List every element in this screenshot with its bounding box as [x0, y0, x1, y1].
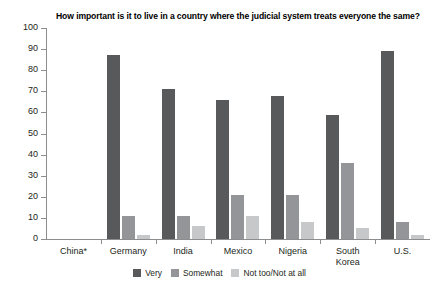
- x-axis-label: U.S.: [375, 246, 430, 257]
- legend-item[interactable]: Very: [133, 268, 162, 278]
- bar: [411, 235, 424, 239]
- x-axis-label-line: China*: [46, 246, 101, 257]
- bar-group-bars: [265, 28, 320, 239]
- bar: [122, 216, 135, 239]
- bar-group: [101, 28, 156, 239]
- bar: [356, 228, 369, 239]
- chart-legend: VerySomewhatNot too/Not at all: [0, 268, 439, 278]
- x-axis-separator: [101, 239, 102, 244]
- bar: [192, 226, 205, 239]
- bar: [231, 195, 244, 239]
- legend-item[interactable]: Somewhat: [171, 268, 223, 278]
- bar-group-bars: [211, 28, 266, 239]
- y-tick-label: 0: [33, 233, 38, 243]
- legend-swatch-icon: [231, 269, 239, 277]
- x-axis-line: [46, 239, 430, 240]
- legend-item[interactable]: Not too/Not at all: [231, 268, 305, 278]
- bar: [246, 216, 259, 239]
- x-axis-separator: [265, 239, 266, 244]
- bar: [326, 115, 339, 239]
- x-axis-separator: [211, 239, 212, 244]
- bar: [216, 100, 229, 239]
- chart-title: How important is it to live in a country…: [56, 11, 432, 21]
- bar: [286, 195, 299, 239]
- plot-area: 1009080706050403020100: [46, 28, 430, 240]
- x-axis-label-line: Mexico: [211, 246, 266, 257]
- bar-group-bars: [320, 28, 375, 239]
- y-tick-label: 20: [28, 191, 38, 201]
- bar-group-bars: [101, 28, 156, 239]
- x-axis-label-line: South: [320, 246, 375, 257]
- y-tick-mark: [41, 239, 46, 240]
- legend-swatch-icon: [133, 269, 141, 277]
- x-axis-label-line: Germany: [101, 246, 156, 257]
- legend-label: Somewhat: [183, 268, 223, 278]
- x-axis-label: Nigeria: [265, 246, 320, 257]
- bar-group: [265, 28, 320, 239]
- legend-label: Not too/Not at all: [243, 268, 305, 278]
- legend-label: Very: [145, 268, 162, 278]
- bar: [341, 163, 354, 239]
- y-tick-label: 80: [28, 64, 38, 74]
- x-axis-label-line: India: [156, 246, 211, 257]
- x-axis-label-line: U.S.: [375, 246, 430, 257]
- y-tick-label: 60: [28, 106, 38, 116]
- x-axis-separator: [320, 239, 321, 244]
- x-axis-label-line: Korea: [320, 257, 375, 268]
- y-tick-label: 100: [23, 22, 38, 32]
- bar-group: [211, 28, 266, 239]
- bar: [137, 235, 150, 239]
- x-axis-separator: [156, 239, 157, 244]
- x-axis-separator: [375, 239, 376, 244]
- bar-group-bars: [156, 28, 211, 239]
- y-tick-label: 90: [28, 43, 38, 53]
- legend-swatch-icon: [171, 269, 179, 277]
- bar: [177, 216, 190, 239]
- bar: [162, 89, 175, 239]
- bar-group: [46, 28, 101, 239]
- x-axis-label: Mexico: [211, 246, 266, 257]
- x-axis-label: India: [156, 246, 211, 257]
- y-tick-label: 30: [28, 170, 38, 180]
- x-axis-label: Germany: [101, 246, 156, 257]
- x-axis-label: China*: [46, 246, 101, 257]
- y-tick-label: 70: [28, 85, 38, 95]
- y-tick-label: 40: [28, 149, 38, 159]
- bar-group: [375, 28, 430, 239]
- bar-group: [320, 28, 375, 239]
- bar-group-bars: [375, 28, 430, 239]
- bar: [271, 96, 284, 239]
- bar: [381, 51, 394, 239]
- bar: [107, 55, 120, 239]
- y-tick-label: 50: [28, 128, 38, 138]
- x-axis-label-line: Nigeria: [265, 246, 320, 257]
- bar-group: [156, 28, 211, 239]
- y-tick-label: 10: [28, 212, 38, 222]
- bar-group-bars: [46, 28, 101, 239]
- chart-container: How important is it to live in a country…: [0, 0, 439, 294]
- bar: [301, 222, 314, 239]
- x-axis-label: SouthKorea: [320, 246, 375, 268]
- bar: [396, 222, 409, 239]
